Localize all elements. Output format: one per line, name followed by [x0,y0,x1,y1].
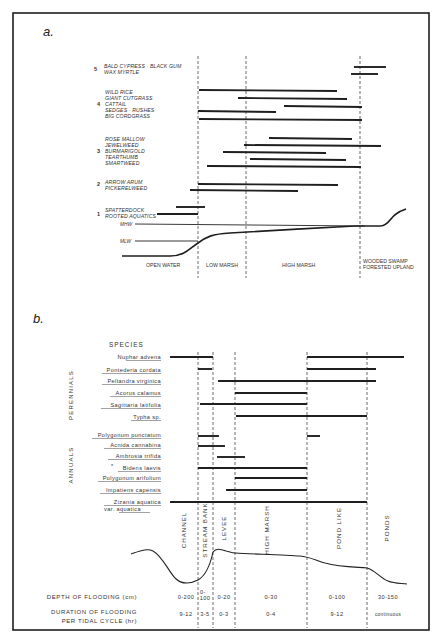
species-name: Zizania aquatica [114,499,162,505]
zone-pond-like: POND LIKE [335,507,342,549]
group-number: 4 [97,101,101,107]
species-label: BIG CORDGRASS [105,113,151,119]
species-name: Polygonum punctatum [98,432,161,438]
zone-forested-upland: FORESTED UPLAND [363,264,414,270]
mhw-line [135,224,365,226]
species-group-1: 1 SPATTERDOCK ROOTED AQUATICS [97,207,205,219]
annuals-category-label: ANNUALS [68,447,74,484]
depth-stream-bank-bottom: 100 [200,595,211,601]
range-bar [198,111,276,112]
species-label: SMARTWEED [105,160,140,166]
mlw-label: MLW [120,239,131,244]
per-tidal-cycle-label: PER TIDAL CYCLE (hr) [62,618,137,624]
species-group-4: 4 WILD RICE GIANT CUTGRASS CATTAIL SEDGE… [97,89,362,120]
species-label: PICKERELWEED [105,185,147,191]
zone-stream-bank: STREAM BANK [201,502,208,557]
zone-high-marsh: HIGH MARSH [263,505,270,555]
tidal-marsh-vegetation-figure: a. 5 BALD CYPRESS · BLACK GUM WAX MYRTLE… [0,0,437,638]
duration-of-flooding-label: DURATION OF FLOODING [51,609,137,615]
depth-high-marsh: 0-30 [265,594,278,600]
species-name: Impatiens capensis [106,487,161,493]
depth-ponds: 30-150 [378,594,398,600]
species-name: Sagittaria latifolia [110,402,161,408]
depth-levee: 0-20 [218,594,231,600]
group-number: 5 [94,66,97,72]
species-name: Acorus calamus [116,390,161,396]
range-bar [199,90,337,91]
duration-levee: 0-3 [219,611,228,617]
species-name: Acnida cannabina [110,442,161,448]
range-bar [284,106,362,107]
annuals-rows: Polygonum punctatum Acnida cannabina Amb… [92,432,367,513]
mhw-label: MHW [120,222,132,227]
range-bar [244,145,381,146]
perennials-rows: Nuphar advena Pontederia cordata Peltand… [101,354,404,421]
panel-a-label: a. [43,24,54,39]
species-variety: var. aquatica [104,506,141,512]
group-number: 3 [97,148,100,154]
species-name: Ambrosia trifida [116,453,162,459]
group-number: 2 [97,181,100,187]
range-bar [238,98,347,99]
species-name: Peltandra virginica [107,378,161,384]
species-group-5: 5 BALD CYPRESS · BLACK GUM WAX MYRTLE [94,63,386,75]
species-group-2: 2 ARROW ARUM PICKERELWEED [97,179,338,191]
range-bar [250,159,346,160]
species-header: SPECIES [109,341,144,348]
duration-high-marsh: 0-4 [266,611,275,617]
depth-channel: 0-200 [178,594,194,600]
species-label: WAX MYRTLE [104,69,140,75]
range-bar [223,152,326,153]
zone-low-marsh: LOW MARSH [206,262,238,268]
range-bar [198,184,338,185]
elevation-profile-curve [131,549,407,584]
zone-high-marsh: HIGH MARSH [282,262,315,268]
panel-a: a. 5 BALD CYPRESS · BLACK GUM WAX MYRTLE… [43,24,414,278]
duration-stream-bank: 3-5 [200,611,209,617]
species-name: Nuphar advena [118,354,162,360]
group-number: 1 [97,211,100,217]
duration-ponds: continuous [375,612,402,617]
species-name: Pontederia cordata [107,367,162,373]
range-bar [190,190,298,191]
ground-profile-curve [122,209,406,256]
duration-pond-like: 9-12 [331,611,344,617]
range-bar [269,138,352,139]
zone-ponds: PONDS [383,514,390,541]
species-name: Typha sp. [133,414,161,420]
zone-levee: LEVEE [220,516,227,541]
species-name: Polygonum arifolium [103,475,161,481]
species-label: ROOTED AQUATICS [105,213,157,219]
annual-marker: * [111,463,114,469]
species-group-3: 3 ROSE MALLOW JEWELWEED BURMARIGOLD TEAR… [97,136,381,167]
perennials-category-label: PERENNIALS [68,370,74,420]
species-name: Bidens laevis [123,465,161,471]
zone-open-water: OPEN WATER [146,262,181,268]
panel-b-label: b. [33,311,44,326]
zone-channel: CHANNEL [180,512,187,549]
depth-of-flooding-label: DEPTH OF FLOODING (cm) [47,594,137,600]
range-bar [199,119,362,120]
range-bar [207,166,361,167]
duration-channel: 9-12 [180,611,193,617]
panel-b: b. SPECIES PERENNIALS ANNUALS Nuphar adv… [33,311,407,628]
depth-pond-like: 0-100 [329,594,345,600]
